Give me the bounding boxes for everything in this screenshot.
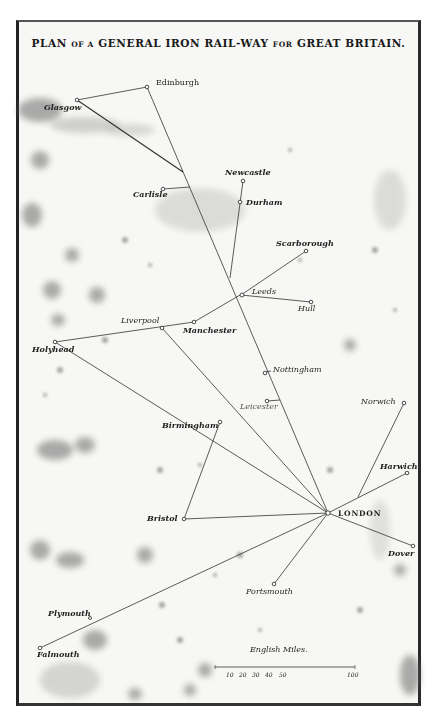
scale-tick-10: 10 <box>226 671 234 678</box>
label-newcastle: Newcastle <box>224 167 271 177</box>
line-norwich-london <box>358 403 404 497</box>
line-london-falmouth <box>40 513 328 648</box>
label-harwich: Harwich <box>379 461 418 471</box>
title-part-of-a: OF A <box>71 40 94 49</box>
label-dover: Dover <box>387 548 415 558</box>
scale-tick-20: 20 <box>238 671 247 678</box>
map-title: PLAN OF A GENERAL IRON RAIL-WAY FOR GREA… <box>0 37 437 49</box>
town-marker-birmingham[interactable] <box>218 420 222 424</box>
label-edinburgh: Edinburgh <box>156 78 199 87</box>
town-marker-nottingham[interactable] <box>263 371 267 375</box>
line-harwich-london <box>328 473 407 513</box>
title-part-for: FOR <box>273 40 293 49</box>
label-liverpool: Liverpool <box>120 316 160 325</box>
town-marker-liverpool[interactable] <box>160 326 164 330</box>
line-glasgow-carlisle <box>77 100 183 172</box>
label-norwich: Norwich <box>360 397 396 406</box>
label-london: LONDON <box>338 509 381 518</box>
title-part-plan: PLAN <box>32 37 67 49</box>
line-leeds-hull <box>241 295 311 302</box>
label-scarborough: Scarborough <box>276 238 334 248</box>
title-part-general: GENERAL IRON RAIL-WAY <box>98 37 268 49</box>
scale-bar: English Miles. 10 20 30 40 50 100 <box>215 645 359 678</box>
label-plymouth: Plymouth <box>47 608 91 618</box>
line-manchester-holyhead <box>55 322 194 342</box>
line-birmingham-bristol <box>184 422 220 519</box>
label-portsmouth: Portsmouth <box>245 587 293 596</box>
town-marker-norwich[interactable] <box>402 401 406 405</box>
label-holyhead: Holyhead <box>31 344 75 354</box>
label-leeds: Leeds <box>251 287 276 296</box>
scale-title: English Miles. <box>249 645 308 654</box>
town-marker-bristol[interactable] <box>182 517 186 521</box>
town-marker-scarborough[interactable] <box>304 249 308 253</box>
label-leicester: Leicester <box>239 402 279 411</box>
line-glasgow-edinburgh <box>77 87 147 100</box>
town-marker-edinburgh[interactable] <box>145 85 149 89</box>
town-marker-manchester[interactable] <box>192 320 196 324</box>
line-bristol-london <box>184 513 328 519</box>
label-glasgow: Glasgow <box>44 102 82 112</box>
railway-map: Edinburgh Glasgow Carlisle Newcastle Dur… <box>0 0 437 724</box>
town-marker-harwich[interactable] <box>405 471 409 475</box>
town-labels: Edinburgh Glasgow Carlisle Newcastle Dur… <box>31 78 418 659</box>
label-bristol: Bristol <box>146 513 178 523</box>
scale-tick-30: 30 <box>252 671 260 678</box>
line-leeds-manchester <box>194 295 240 322</box>
title-part-great-britain: GREAT BRITAIN. <box>297 37 406 49</box>
town-marker-durham[interactable] <box>238 200 242 204</box>
scale-tick-40: 40 <box>264 671 273 678</box>
label-hull: Hull <box>297 304 316 313</box>
label-birmingham: Birmingham <box>161 420 218 430</box>
town-marker-portsmouth[interactable] <box>272 582 276 586</box>
line-edinburgh-london <box>147 87 328 513</box>
label-nottingham: Nottingham <box>272 365 322 374</box>
town-marker-newcastle[interactable] <box>241 179 245 183</box>
label-manchester: Manchester <box>182 325 237 335</box>
scale-tick-50: 50 <box>279 671 287 678</box>
label-carlisle: Carlisle <box>133 189 167 199</box>
label-durham: Durham <box>245 197 282 207</box>
scale-tick-100: 100 <box>347 671 359 678</box>
town-marker-leeds[interactable] <box>240 293 244 297</box>
town-marker-london[interactable] <box>326 511 330 515</box>
line-london-portsmouth <box>274 513 328 584</box>
label-falmouth: Falmouth <box>36 649 80 659</box>
